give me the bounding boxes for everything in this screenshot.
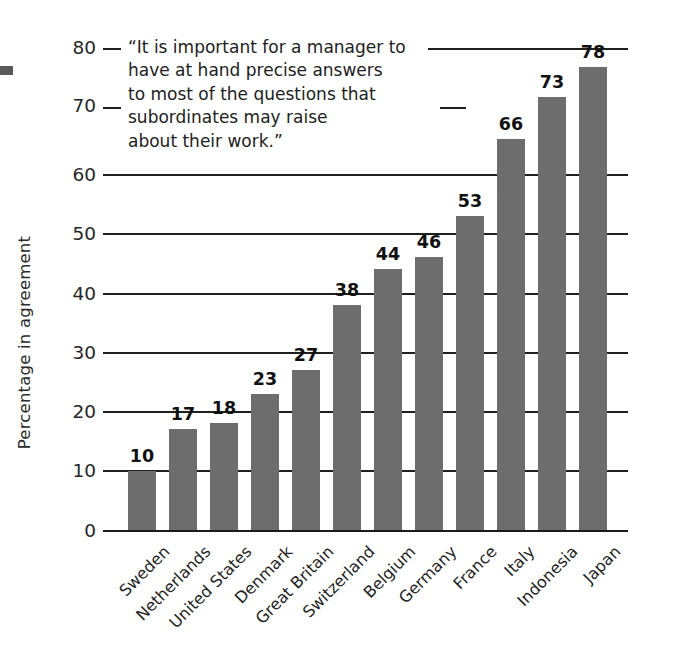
bar-value-france: 53 [445, 191, 495, 211]
bar-belgium [374, 269, 402, 530]
bar-sweden [128, 471, 156, 530]
bar-switzerland [333, 305, 361, 530]
bar-france [456, 216, 484, 530]
bar-denmark [251, 394, 279, 530]
bar-value-japan: 78 [568, 42, 618, 62]
bar-japan [579, 67, 607, 530]
bar-indonesia [538, 97, 566, 530]
bar-value-indonesia: 73 [527, 72, 577, 92]
quote-line-4: subordinates may raise [128, 106, 428, 129]
quote-line-5: about their work.” [128, 130, 428, 153]
bar-italy [497, 139, 525, 530]
quote-line-1: “It is important for a manager to [128, 36, 428, 59]
bar-chart: Percentage in agreement 0 10 20 30 40 50… [0, 0, 681, 658]
quote-annotation: “It is important for a manager to have a… [128, 36, 428, 153]
bar-value-denmark: 23 [240, 369, 290, 389]
bar-germany [415, 257, 443, 530]
bar-value-switzerland: 38 [322, 280, 372, 300]
bar-netherlands [169, 429, 197, 530]
bar-value-sweden: 10 [117, 446, 167, 466]
bar-united-states [210, 423, 238, 530]
quote-line-3: to most of the questions that [128, 83, 428, 106]
x-axis-line [103, 530, 628, 532]
quote-line-2: have at hand precise answers [128, 59, 428, 82]
bar-great-britain [292, 370, 320, 530]
bar-value-great-britain: 27 [281, 345, 331, 365]
bar-value-germany: 46 [404, 232, 454, 252]
bar-value-united-states: 18 [199, 398, 249, 418]
bar-value-italy: 66 [486, 114, 536, 134]
